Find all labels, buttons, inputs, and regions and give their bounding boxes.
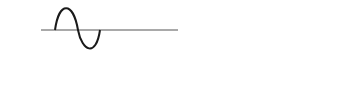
input-panel (41, 8, 178, 54)
rectifier-diagram (0, 0, 362, 102)
input-sine-wave (55, 8, 100, 48)
